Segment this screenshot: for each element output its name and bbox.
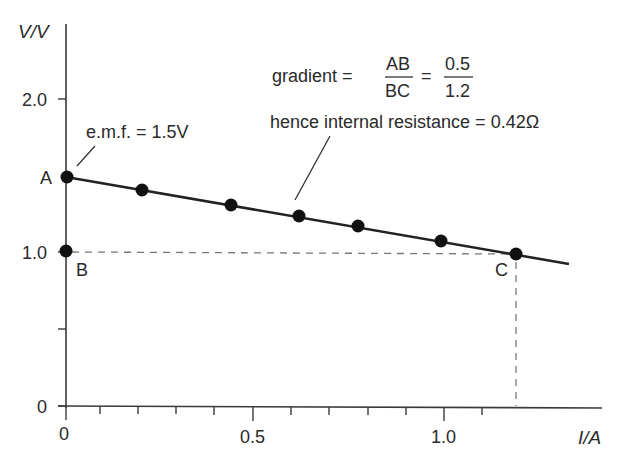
point-label-c: C (495, 260, 508, 280)
data-point-b (60, 245, 73, 258)
data-point (136, 184, 149, 197)
emf-leader-line (77, 146, 95, 166)
y-tick-label-2: 2.0 (22, 90, 47, 110)
x-tick-label-0: 0 (59, 424, 69, 444)
data-point (293, 210, 306, 223)
x-axis-label: I/A (578, 427, 601, 448)
data-point (352, 220, 365, 233)
emf-annotation: e.m.f. = 1.5V (86, 122, 189, 142)
gradient-label: gradient = (272, 66, 353, 86)
fraction-bc: BC (385, 81, 410, 101)
fraction-num-05: 0.5 (445, 54, 470, 74)
iv-graph: V/V I/A 2.0 1.0 0 0 0.5 1.0 A B C e.m.f.… (0, 0, 634, 471)
y-tick-label-1: 1.0 (22, 243, 47, 263)
x-tick-label-05: 0.5 (240, 427, 265, 447)
resistance-leader-line (295, 136, 330, 200)
y-tick-label-0: 0 (37, 397, 47, 417)
y-axis-label: V/V (18, 21, 51, 42)
data-point-a (61, 171, 74, 184)
data-point-c (510, 248, 523, 261)
data-point (225, 199, 238, 212)
resistance-annotation: hence internal resistance = 0.42Ω (270, 112, 539, 132)
x-tick-label-1: 1.0 (431, 427, 456, 447)
fraction-den-12: 1.2 (445, 81, 470, 101)
point-label-a: A (40, 168, 52, 188)
fraction-ab: AB (386, 54, 410, 74)
x-ticks (66, 406, 482, 421)
x-axis (58, 406, 602, 408)
data-point (435, 235, 448, 248)
equals-sign: = (421, 66, 432, 86)
dashed-line-bc (72, 252, 512, 254)
point-label-b: B (76, 260, 88, 280)
